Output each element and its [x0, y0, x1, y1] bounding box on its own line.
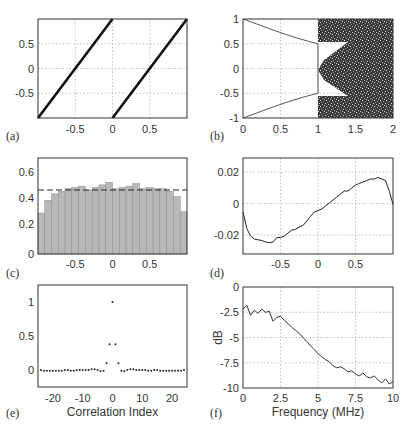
- data-point: [46, 370, 48, 372]
- histogram-bar: [153, 189, 160, 254]
- ytick: 0.02: [218, 166, 239, 178]
- data-point: [40, 369, 42, 371]
- ytick: -0.5: [15, 87, 34, 99]
- data-point: [129, 368, 131, 370]
- histogram-bar: [65, 189, 72, 254]
- panel-label-f: (f): [210, 406, 222, 420]
- xtick: 0: [315, 258, 321, 270]
- data-point: [171, 370, 173, 372]
- data-point: [43, 370, 45, 372]
- data-point: [88, 369, 90, 371]
- histogram-bar: [173, 196, 180, 254]
- ytick: 0.4: [19, 192, 34, 204]
- xtick: -0.5: [271, 258, 290, 270]
- data-point: [126, 369, 128, 371]
- ytick: -0.5: [220, 87, 239, 99]
- data-point: [135, 369, 137, 371]
- histogram-bar: [45, 200, 52, 254]
- xtick: 0: [109, 258, 115, 270]
- data-point: [73, 370, 75, 372]
- data-point: [159, 370, 161, 372]
- xtick: 0: [109, 123, 115, 135]
- histogram-bar: [140, 189, 147, 254]
- ytick: 0: [233, 281, 239, 293]
- data-point: [67, 369, 69, 371]
- xtick: -10: [75, 392, 91, 404]
- histogram-bar: [133, 184, 140, 254]
- data-point: [174, 370, 176, 372]
- panel-b: 1 0.5 0 -0.5 -1 0 0.5 1 1.5 2 (b): [210, 13, 396, 143]
- ytick: 1: [233, 13, 239, 25]
- ytick: 0: [28, 63, 34, 75]
- histogram-bar: [106, 182, 113, 254]
- data-point: [100, 370, 102, 372]
- xtick: -0.5: [66, 258, 85, 270]
- histogram-bar: [160, 189, 167, 254]
- y-axis-title: dB: [211, 330, 225, 345]
- data-point: [55, 370, 57, 372]
- ytick: -1: [229, 112, 239, 124]
- data-point: [49, 370, 51, 372]
- xtick: 5: [315, 392, 321, 404]
- panel-c: 0.6 0.4 0.2 0 -0.5 0 0.5 (c): [6, 158, 187, 280]
- histogram-bar: [119, 187, 126, 254]
- panel-label-e: (e): [6, 406, 19, 420]
- data-point: [168, 370, 170, 372]
- data-point: [58, 370, 60, 372]
- data-point: [123, 370, 125, 372]
- xtick: 0: [240, 392, 246, 404]
- ytick: 1: [28, 296, 34, 308]
- xtick: 1.5: [348, 123, 363, 135]
- xtick: 0.5: [273, 123, 288, 135]
- ytick: 0.2: [19, 218, 34, 230]
- xtick: 0: [109, 392, 115, 404]
- panel-label-a: (a): [6, 129, 19, 143]
- xtick: 0: [240, 123, 246, 135]
- data-point: [120, 370, 122, 372]
- ytick: -5: [229, 332, 239, 344]
- histogram-bars: [38, 182, 187, 254]
- x-axis-title: Correlation Index: [67, 405, 158, 419]
- data-point: [153, 369, 155, 371]
- ytick: 0.5: [224, 38, 239, 50]
- panel-e: 1 0.5 0 -20 -10 0 10 20 Correlation Inde…: [6, 285, 187, 420]
- data-point: [97, 369, 99, 371]
- xtick: -20: [45, 392, 61, 404]
- panel-a: 0.5 0 -0.5 -0.5 0 0.5 (a): [6, 19, 187, 143]
- histogram-bar: [92, 187, 99, 254]
- ytick: 0: [233, 63, 239, 75]
- data-point: [64, 369, 66, 371]
- ytick: -7.5: [220, 357, 239, 369]
- data-point: [165, 370, 167, 372]
- data-point: [70, 370, 72, 372]
- data-point: [82, 369, 84, 371]
- xtick: -0.5: [66, 123, 85, 135]
- ytick: 0.5: [19, 38, 34, 50]
- histogram-bar: [85, 190, 92, 254]
- xtick: 2: [390, 123, 396, 135]
- ytick: 0: [233, 198, 239, 210]
- x-axis-title: Frequency (MHz): [272, 405, 365, 419]
- xtick: 10: [387, 392, 399, 404]
- figure: 0.5 0 -0.5 -0.5 0 0.5 (a): [0, 0, 414, 433]
- data-point: [150, 370, 152, 372]
- xtick: 2.5: [273, 392, 288, 404]
- histogram-bar: [79, 186, 86, 254]
- histogram-bar: [167, 191, 174, 254]
- panel-label-b: (b): [210, 129, 224, 143]
- histogram-bar: [72, 187, 79, 254]
- xtick: 1: [315, 123, 321, 135]
- data-point: [117, 362, 119, 364]
- data-point: [76, 369, 78, 371]
- histogram-bar: [180, 212, 187, 254]
- data-point: [147, 370, 149, 372]
- data-point: [61, 370, 63, 372]
- panel-d: 0.02 0 -0.02 -0.5 0 0.5 (d): [210, 158, 393, 280]
- data-point: [162, 370, 164, 372]
- panel-label-d: (d): [210, 266, 224, 280]
- panel-label-c: (c): [6, 266, 19, 280]
- panel-f: 0 -2.5 -5 -7.5 -10 0 2.5 5 7.5 10 Freque…: [210, 281, 399, 420]
- ytick: 0.6: [19, 166, 34, 178]
- histogram-bar: [38, 213, 45, 254]
- ytick: -10: [223, 382, 239, 394]
